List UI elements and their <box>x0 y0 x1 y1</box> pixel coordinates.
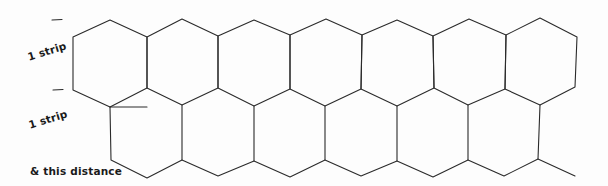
top-row <box>73 18 577 107</box>
trailing-edge <box>538 159 575 176</box>
strip-marker-top <box>52 20 62 21</box>
hexagon <box>397 105 468 177</box>
distance-label: & this distance <box>30 165 122 177</box>
hexagon <box>182 106 254 176</box>
hexagon <box>325 106 397 176</box>
hexagon <box>361 20 434 106</box>
diagram-canvas: 1 strip 1 strip & this distance <box>0 0 608 186</box>
hexagon <box>218 20 290 106</box>
hexagon <box>73 20 147 107</box>
hexagon <box>290 19 362 106</box>
hexagon <box>254 106 325 177</box>
hexagon <box>468 105 540 176</box>
hexagon <box>147 19 218 105</box>
bottom-row <box>110 105 575 178</box>
hexagon <box>433 19 506 105</box>
hexagon <box>505 18 577 105</box>
strip-marker-middle <box>53 90 63 91</box>
hexagon-grid <box>0 0 608 186</box>
